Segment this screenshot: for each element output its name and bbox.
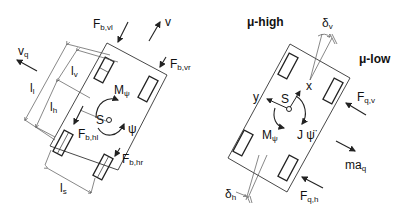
label-mu-low: μ-low <box>359 52 391 66</box>
center-of-gravity-S <box>107 118 112 123</box>
force-ma-q-arrow <box>336 141 355 151</box>
label-J-psi-ddot: J ψ̈ <box>297 128 317 142</box>
label-l-s: ls <box>60 181 67 196</box>
vehicle-body-outline <box>50 43 167 170</box>
label-ma-q: maq <box>345 158 366 173</box>
wheel-rear-left <box>53 130 73 156</box>
wheel-front-right <box>323 78 343 104</box>
label-v-q: vq <box>18 44 28 59</box>
velocity-v-arrow <box>149 22 160 41</box>
label-M-psi: Mψ <box>262 128 278 143</box>
label-F-q-h: Fq,h <box>300 189 318 204</box>
force-F-q-v-arrow <box>346 103 366 115</box>
label-v: v <box>165 15 171 29</box>
label-psi: ψ <box>128 122 137 136</box>
center-of-gravity-S <box>287 107 292 112</box>
wheel-front-left <box>278 53 298 79</box>
force-F-b-vr-arrow <box>160 57 166 67</box>
label-S: S <box>281 92 289 106</box>
label-delta-v: δv <box>322 16 333 31</box>
force-F-b-hr-arrow <box>115 148 120 156</box>
velocity-vq-arrow <box>17 60 37 71</box>
inertia-J-psi-arrow <box>296 96 305 124</box>
label-y: y <box>253 90 259 104</box>
steering-angle-front <box>310 34 337 80</box>
label-M-psi: Mψ <box>114 83 130 98</box>
force-F-b-hl-arrow <box>74 106 83 124</box>
label-F-b-hr: Fb,hr <box>122 152 143 167</box>
label-l-l: ll <box>30 81 35 96</box>
label-S: S <box>96 113 104 127</box>
label-F-b-hl: Fb,hl <box>78 127 98 142</box>
label-delta-h: δh <box>225 187 236 202</box>
label-l-h: lh <box>50 100 57 115</box>
label-mu-high: μ-high <box>247 15 284 29</box>
label-x: x <box>306 79 312 93</box>
label-l-v: lv <box>71 64 78 79</box>
steering-angle-rear <box>236 155 267 203</box>
label-F-b-vl: Fb,vl <box>93 17 113 32</box>
x-axis-arrow <box>289 91 300 109</box>
left-vehicle-diagram: Fb,vl v Fb,vr vq ll lv lh Mψ S ψ Fb,hl F… <box>17 15 191 196</box>
force-F-b-vl-arrow <box>118 22 128 42</box>
right-vehicle-diagram: μ-high μ-low δv x y S Fq,v Mψ J ψ̈ maq δ… <box>225 15 391 204</box>
vehicle-body-outline <box>228 44 350 192</box>
label-F-b-vr: Fb,vr <box>170 57 191 72</box>
label-F-q-v: Fq,v <box>357 90 375 105</box>
moment-M-psi-arrow <box>274 108 284 128</box>
vehicle-dynamics-diagram: Fb,vl v Fb,vr vq ll lv lh Mψ S ψ Fb,hl F… <box>0 0 400 210</box>
force-F-q-h-arrow <box>302 177 323 188</box>
